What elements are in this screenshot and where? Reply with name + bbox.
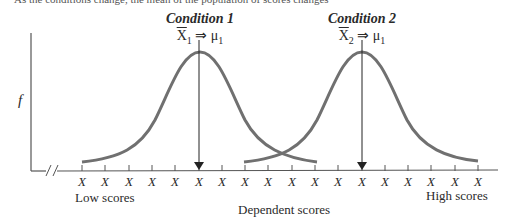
condition-2-label: Condition 2 — [328, 11, 396, 27]
tick-label: X — [264, 174, 272, 190]
low-scores-label: Low scores — [75, 190, 135, 206]
x-axis-title: Dependent scores — [238, 202, 330, 218]
y-axis-label: f — [18, 92, 22, 109]
tick-label: X — [171, 174, 179, 190]
tick-label: X — [148, 174, 156, 190]
tick-label: X — [241, 174, 249, 190]
tick-label: X — [101, 174, 109, 190]
condition-1-formula: X1 ⇒ μ1 — [177, 27, 224, 46]
x-axis — [57, 170, 498, 171]
tick-label: X — [195, 174, 203, 190]
condition-1-label: Condition 1 — [166, 11, 234, 27]
tick-label: X — [125, 174, 133, 190]
axis-break-icon — [46, 165, 58, 176]
tick-label: X — [381, 174, 389, 190]
tick-label: X — [311, 174, 319, 190]
tick-label: X — [288, 174, 296, 190]
tick-label: X — [358, 174, 366, 190]
high-scores-label: High scores — [426, 188, 488, 204]
tick-label: X — [334, 174, 342, 190]
distribution-curve-condition-2 — [244, 52, 478, 162]
tick-label: X — [218, 174, 226, 190]
condition-2-formula: X2 ⇒ μ1 — [339, 27, 386, 46]
mean-arrow-condition-1 — [194, 40, 204, 170]
mean-arrow-condition-2 — [357, 40, 367, 170]
tick-label: X — [404, 174, 412, 190]
tick-label: X — [78, 174, 86, 190]
